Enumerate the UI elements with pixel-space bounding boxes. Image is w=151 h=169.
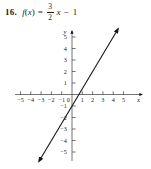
x-tick-label: −3	[38, 96, 45, 103]
y-tick-label: 3	[64, 56, 67, 63]
y-tick-label: 4	[64, 45, 67, 52]
x-tick-label: 5	[122, 96, 125, 103]
y-tick-label: −1	[60, 102, 67, 109]
equals-sign: =	[38, 8, 43, 17]
right-paren: )	[32, 8, 35, 17]
x-tick-label: 3	[101, 96, 104, 103]
problem-header: 16. f ( x ) = 3 2 x − 1	[5, 1, 78, 23]
y-tick-label: 5	[64, 33, 67, 40]
x-tick-label: 2	[91, 96, 94, 103]
y-tick-label: −3	[60, 125, 67, 132]
problem-number: 16.	[5, 8, 17, 17]
x-tick-label: 0	[67, 96, 70, 103]
x-tick-label: −2	[48, 96, 55, 103]
x-tick-label: −5	[17, 96, 24, 103]
y-tick-label: −4	[60, 137, 67, 144]
y-tick-label: −5	[60, 148, 67, 155]
fraction: 3 2	[47, 3, 54, 22]
x-tick-label: 4	[112, 96, 115, 103]
fraction-denominator: 2	[47, 12, 54, 22]
fraction-numerator: 3	[47, 3, 54, 12]
function-line	[39, 29, 118, 161]
constant-term: − 1	[64, 8, 79, 17]
y-tick-label: 2	[64, 68, 67, 75]
x-tick-label: −4	[28, 96, 35, 103]
ticks-group: −5−4−3−2−1012345−5−4−3−2−112345	[17, 33, 125, 155]
textbook-exercise: 16. f ( x ) = 3 2 x − 1 x y −5−4−	[0, 0, 151, 169]
slope-variable: x	[57, 8, 61, 17]
x-axis-label: x	[136, 96, 140, 103]
function-expression: f ( x ) = 3 2 x − 1	[22, 3, 78, 22]
y-tick-label: 1	[64, 79, 67, 86]
x-tick-label: 1	[81, 96, 84, 103]
graph-svg: x y −5−4−3−2−1012345−5−4−3−2−112345	[0, 22, 151, 169]
